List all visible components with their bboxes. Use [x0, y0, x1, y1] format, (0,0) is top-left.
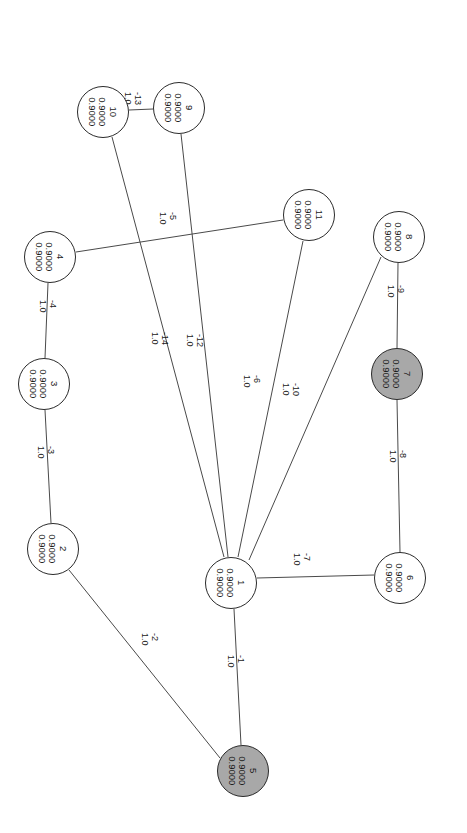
node-label: 50.90000.9000: [227, 756, 259, 785]
node-id: 11: [314, 200, 325, 229]
edge-id: -14: [160, 332, 170, 345]
edge-id: -12: [195, 334, 205, 347]
node-label: 10.90000.9000: [215, 568, 247, 597]
graph-diagram: -131.0-141.0-121.0-51.0-41.0-31.0-61.0-1…: [0, 0, 467, 833]
node-id: 7: [402, 359, 413, 388]
node-label: 30.90000.9000: [28, 369, 60, 398]
node-label: 100.90000.9000: [87, 97, 119, 126]
node-label: 40.90000.9000: [34, 242, 66, 271]
node-value: 0.9000: [39, 369, 50, 398]
node-id: 2: [58, 534, 69, 563]
node-value-secondary: 0.9000: [34, 242, 45, 271]
edge-weight: 1.0: [281, 383, 291, 396]
node-value: 0.9000: [238, 756, 249, 785]
graph-node-5[interactable]: 50.90000.9000: [217, 745, 269, 797]
edge-label: -81.0: [388, 450, 408, 463]
graph-edge: [257, 575, 374, 578]
node-value-secondary: 0.9000: [87, 97, 98, 126]
graph-edge: [397, 263, 398, 348]
edge-id: -9: [396, 285, 406, 298]
edge-id: -3: [46, 446, 56, 459]
edge-label: -61.0: [242, 375, 262, 388]
graph-edge: [76, 220, 283, 252]
node-label: 110.90000.9000: [293, 200, 325, 229]
edge-label: -21.0: [140, 633, 160, 646]
graph-node-2[interactable]: 20.90000.9000: [27, 523, 79, 575]
edge-label: -101.0: [281, 383, 301, 396]
graph-edge: [397, 400, 400, 552]
edge-id: -7: [302, 553, 312, 566]
edge-weight: 1.0: [386, 285, 396, 298]
graph-node-10[interactable]: 100.90000.9000: [77, 86, 129, 138]
edge-label: -91.0: [386, 285, 406, 298]
edge-weight: 1.0: [185, 334, 195, 347]
node-id: 3: [49, 369, 60, 398]
node-id: 1: [236, 568, 247, 597]
edge-weight: 1.0: [158, 212, 168, 225]
node-value: 0.9000: [304, 200, 315, 229]
node-value-secondary: 0.9000: [293, 200, 304, 229]
node-value: 0.9000: [174, 93, 185, 122]
node-value-secondary: 0.9000: [383, 222, 394, 251]
node-label: 70.90000.9000: [381, 359, 413, 388]
edge-weight: 1.0: [150, 332, 160, 345]
edge-id: -5: [168, 212, 178, 225]
graph-node-11[interactable]: 110.90000.9000: [283, 189, 335, 241]
edge-weight: 1.0: [36, 446, 46, 459]
edge-id: -13: [133, 92, 143, 105]
node-label: 90.90000.9000: [163, 93, 195, 122]
node-value: 0.9000: [48, 534, 59, 563]
edge-label: -121.0: [185, 334, 205, 347]
edge-id: -10: [291, 383, 301, 396]
node-label: 80.90000.9000: [383, 222, 415, 251]
node-value-secondary: 0.9000: [215, 568, 226, 597]
graph-edge: [45, 410, 51, 523]
edge-weight: 1.0: [388, 450, 398, 463]
graph-edge: [112, 137, 224, 557]
node-value-secondary: 0.9000: [381, 359, 392, 388]
node-value: 0.9000: [226, 568, 237, 597]
node-id: 4: [55, 242, 66, 271]
node-label: 20.90000.9000: [37, 534, 69, 563]
edge-label: -11.0: [226, 655, 246, 668]
edge-label: -41.0: [38, 300, 58, 313]
node-id: 9: [184, 93, 195, 122]
graph-edge: [234, 609, 241, 745]
node-label: 60.90000.9000: [384, 563, 416, 592]
graph-node-3[interactable]: 30.90000.9000: [18, 358, 70, 410]
edge-id: -4: [48, 300, 58, 313]
edge-weight: 1.0: [140, 633, 150, 646]
node-value: 0.9000: [45, 242, 56, 271]
edge-weight: 1.0: [292, 553, 302, 566]
node-value-secondary: 0.9000: [163, 93, 174, 122]
edge-label: -141.0: [150, 332, 170, 345]
graph-node-7[interactable]: 70.90000.9000: [371, 348, 423, 400]
edge-label: -31.0: [36, 446, 56, 459]
edge-id: -6: [252, 375, 262, 388]
graph-edge: [129, 109, 153, 110]
node-value-secondary: 0.9000: [384, 563, 395, 592]
node-value: 0.9000: [98, 97, 109, 126]
edge-id: -2: [150, 633, 160, 646]
node-value: 0.9000: [395, 563, 406, 592]
node-value-secondary: 0.9000: [28, 369, 39, 398]
edge-layer: [0, 0, 467, 833]
node-id: 8: [404, 222, 415, 251]
edge-id: -8: [398, 450, 408, 463]
edge-weight: 1.0: [38, 300, 48, 313]
graph-edge: [45, 283, 48, 358]
node-id: 5: [248, 756, 259, 785]
node-value-secondary: 0.9000: [227, 756, 238, 785]
edge-weight: 1.0: [242, 375, 252, 388]
edge-id: -1: [236, 655, 246, 668]
graph-node-9[interactable]: 90.90000.9000: [153, 82, 205, 134]
node-value: 0.9000: [394, 222, 405, 251]
node-value: 0.9000: [392, 359, 403, 388]
graph-node-1[interactable]: 10.90000.9000: [205, 557, 257, 609]
edge-label: -51.0: [158, 212, 178, 225]
graph-node-8[interactable]: 80.90000.9000: [373, 211, 425, 263]
graph-node-4[interactable]: 40.90000.9000: [24, 231, 76, 283]
graph-edge: [69, 570, 220, 758]
node-id: 6: [405, 563, 416, 592]
graph-node-6[interactable]: 60.90000.9000: [374, 552, 426, 604]
